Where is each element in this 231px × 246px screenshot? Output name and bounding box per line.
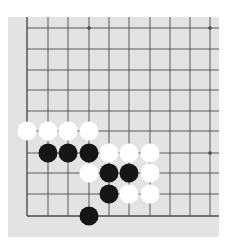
star-point [208,151,212,155]
white-stone [80,164,99,183]
black-stone [120,164,139,183]
go-board[interactable] [8,17,219,237]
black-stone [80,207,99,226]
black-stone [80,144,99,163]
star-point [87,26,91,30]
black-stone [100,164,119,183]
white-stone [39,122,58,141]
star-point [208,26,212,30]
white-stone [141,164,160,183]
board-grid[interactable] [8,17,231,246]
white-stone [100,144,119,163]
white-stone [141,144,160,163]
white-stone [18,122,37,141]
white-stone [120,144,139,163]
white-stone [141,185,160,204]
black-stone [59,144,78,163]
white-stone [59,122,78,141]
white-stone [80,122,99,141]
black-stone [39,144,58,163]
black-stone [100,185,119,204]
white-stone [120,185,139,204]
